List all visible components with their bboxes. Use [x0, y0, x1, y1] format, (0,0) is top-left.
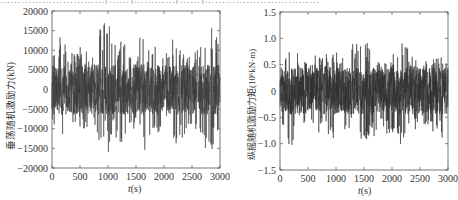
heave-y-tick-label: 10000: [23, 45, 48, 56]
pitch-x-tick-label: 0: [278, 173, 283, 184]
heave-x-tick-label: 500: [73, 171, 88, 182]
pitch-x-tick-label: 2500: [410, 173, 430, 184]
heave-y-tick-label: 15000: [23, 25, 48, 36]
pitch-y-axis-label: 纵摇随机激励力矩(10⁶kN·m): [245, 49, 258, 160]
heave-x-tick-label: 2000: [154, 171, 174, 182]
heave-plot-area: 20000150001000050000−5000−10000−15000−20…: [0, 0, 229, 200]
heave-x-tick-label: 3000: [210, 171, 230, 182]
pitch-plot-area: 1.51.00.50−0.5−1.0−1.5050010001500200025…: [229, 0, 458, 200]
heave-x-tick-label: 0: [50, 171, 55, 182]
pitch-y-tick-label: −0.5: [258, 112, 276, 123]
pitch-y-tick-label: −1.5: [258, 165, 276, 176]
pitch-x-tick-label: 1500: [354, 173, 374, 184]
heave-y-axis-label: 垂荡随机激励力(kN): [3, 62, 17, 150]
pitch-x-tick-label: 1000: [326, 173, 346, 184]
pitch-x-tick-label: 3000: [438, 173, 458, 184]
heave-y-tick-label: −20000: [17, 163, 48, 174]
pitch-signal-trace: [280, 43, 448, 145]
pitch-x-tick-label: 2000: [382, 173, 402, 184]
heave-x-tick-label: 1000: [98, 171, 118, 182]
heave-y-tick-label: −5000: [22, 104, 48, 115]
pitch-x-tick-label: 500: [301, 173, 316, 184]
heave-force-chart: 20000150001000050000−5000−10000−15000−20…: [0, 0, 229, 200]
heave-x-tick-label: 1500: [126, 171, 146, 182]
heave-x-axis-label: t(s): [128, 183, 141, 194]
pitch-x-unit: (s): [361, 185, 372, 196]
heave-y-tick-label: 5000: [28, 64, 48, 75]
heave-x-tick-label: 2500: [182, 171, 202, 182]
heave-signal-trace: [52, 23, 220, 152]
heave-y-tick-label: −15000: [17, 143, 48, 154]
heave-x-unit: (s): [131, 183, 142, 194]
pitch-y-tick-label: 0: [271, 86, 276, 97]
pitch-moment-chart: 1.51.00.50−0.5−1.0−1.5050010001500200025…: [229, 0, 458, 200]
pitch-y-tick-label: 0.5: [264, 59, 277, 70]
heave-y-tick-label: 20000: [23, 6, 48, 17]
heave-y-tick-label: −10000: [17, 123, 48, 134]
pitch-y-tick-label: 1.5: [264, 7, 277, 18]
pitch-y-tick-label: −1.0: [258, 138, 276, 149]
pitch-y-tick-label: 1.0: [264, 33, 277, 44]
heave-y-tick-label: 0: [43, 84, 48, 95]
pitch-x-axis-label: t(s): [358, 185, 371, 196]
